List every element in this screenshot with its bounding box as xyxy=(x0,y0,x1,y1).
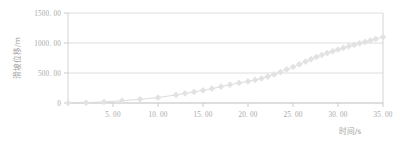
data-point-marker xyxy=(357,40,363,46)
x-axis-title: 时间/s xyxy=(339,126,362,136)
y-tick-label-1000: 1000. 00 xyxy=(34,40,61,48)
data-point-marker xyxy=(373,36,379,42)
y-tick-label-500: 500. 00 xyxy=(38,70,61,78)
y-axis-title: 滑坡位移/m xyxy=(12,37,22,79)
x-tick-label-35: 35. 00 xyxy=(373,111,392,119)
data-point-marker xyxy=(324,50,330,56)
data-point-marker xyxy=(83,100,89,106)
x-tick-label-30: 30. 00 xyxy=(328,111,347,119)
data-point-marker xyxy=(155,95,161,101)
data-point-marker xyxy=(182,90,188,96)
plot-frame xyxy=(68,13,383,103)
series-markers xyxy=(65,34,386,106)
data-point-marker xyxy=(258,75,264,81)
data-point-marker xyxy=(191,89,197,95)
x-tick-label-25: 25. 00 xyxy=(283,111,302,119)
data-point-marker xyxy=(330,48,336,54)
data-point-marker xyxy=(65,100,71,106)
x-tick-label-20: 20. 00 xyxy=(238,111,257,119)
y-tick-label-0: 0 xyxy=(57,100,61,108)
data-point-marker xyxy=(218,84,224,90)
data-point-marker xyxy=(236,80,242,86)
data-point-marker xyxy=(284,66,290,72)
data-point-marker xyxy=(265,74,271,80)
data-point-marker xyxy=(252,77,258,83)
gridlines xyxy=(68,13,383,73)
data-point-marker xyxy=(137,96,143,102)
data-point-marker xyxy=(209,86,215,92)
data-series-displacement xyxy=(65,34,386,106)
data-point-marker xyxy=(245,78,251,84)
x-tick-label-10: 10. 00 xyxy=(148,111,167,119)
data-point-marker xyxy=(362,39,368,45)
series-line xyxy=(68,37,383,103)
x-tick-label-15: 15. 00 xyxy=(193,111,212,119)
data-point-marker xyxy=(380,34,386,40)
y-tick-labels: 1500. 00 1000. 00 500. 00 0 xyxy=(34,10,61,108)
y-tick-label-1500: 1500. 00 xyxy=(34,10,61,18)
chart-container: 1500. 00 1000. 00 500. 00 0 5. 00 10. 00… xyxy=(0,0,407,147)
data-point-marker xyxy=(335,47,341,53)
x-tick-labels: 5. 00 10. 00 15. 00 20. 00 25. 00 30. 00… xyxy=(105,111,392,119)
x-axis-ticks xyxy=(113,103,383,107)
x-tick-label-5: 5. 00 xyxy=(105,111,121,119)
data-point-marker xyxy=(340,45,346,51)
data-point-marker xyxy=(173,92,179,98)
data-point-marker xyxy=(271,71,277,77)
data-point-marker xyxy=(319,52,325,58)
data-point-marker xyxy=(277,69,283,75)
line-chart: 1500. 00 1000. 00 500. 00 0 5. 00 10. 00… xyxy=(0,0,407,147)
y-axis-ticks xyxy=(64,13,68,103)
data-point-marker xyxy=(227,82,233,88)
data-point-marker xyxy=(303,59,309,65)
data-point-marker xyxy=(200,87,206,93)
data-point-marker xyxy=(101,99,107,105)
data-point-marker xyxy=(346,43,352,49)
data-point-marker xyxy=(290,64,296,70)
data-point-marker xyxy=(296,61,302,67)
